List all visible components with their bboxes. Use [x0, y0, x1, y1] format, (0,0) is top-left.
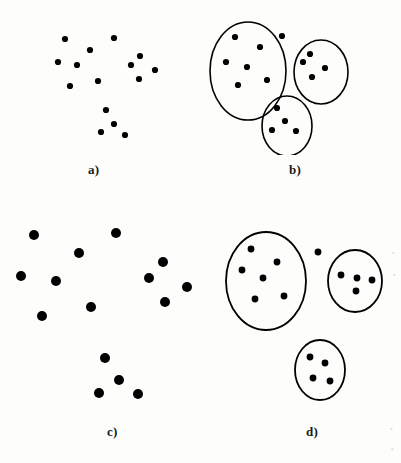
scan-artifact-1: •: [392, 248, 395, 258]
outlier-point: [152, 67, 158, 73]
outlier-point: [55, 59, 61, 65]
outlier-point: [29, 230, 39, 240]
panel-d-plot: [200, 200, 401, 415]
data-point: [223, 59, 229, 65]
outlier-point: [100, 353, 110, 363]
data-point: [239, 267, 246, 274]
data-point: [300, 59, 306, 65]
data-point: [235, 82, 241, 88]
data-point: [282, 118, 288, 124]
outlier-point: [128, 62, 134, 68]
outlier-point: [111, 228, 121, 238]
data-point: [274, 259, 281, 266]
outlier-point: [114, 375, 124, 385]
outlier-point: [74, 62, 80, 68]
outlier-point: [62, 36, 68, 42]
cluster-ellipse: [295, 340, 345, 400]
outlier-point: [279, 33, 285, 39]
data-point: [248, 246, 255, 253]
data-point: [293, 128, 299, 134]
outlier-point: [158, 257, 168, 267]
panel-a-plot: [0, 0, 200, 155]
clustering-figure: a) b) c) d) • • • •: [0, 0, 401, 463]
outlier-point: [315, 249, 322, 256]
outlier-point: [133, 389, 143, 399]
outlier-point: [16, 271, 26, 281]
data-point: [309, 74, 315, 80]
outlier-point: [182, 282, 192, 292]
panel-b-ellipse-group: [210, 22, 348, 155]
panel-a-label: a): [88, 162, 99, 178]
data-point: [353, 288, 360, 295]
panel-d: [200, 200, 401, 415]
data-point: [244, 64, 250, 70]
outlier-point: [136, 76, 142, 82]
scan-artifact-4: •: [391, 444, 394, 454]
panel-c-label: c): [107, 424, 118, 440]
outlier-point: [74, 248, 84, 258]
outlier-point: [103, 107, 109, 113]
outlier-point: [137, 53, 143, 59]
data-point: [257, 44, 263, 50]
outlier-point: [160, 297, 170, 307]
data-point: [274, 105, 280, 111]
outlier-point: [111, 121, 117, 127]
data-point: [307, 51, 313, 57]
panel-d-label: d): [306, 424, 318, 440]
data-point: [281, 293, 288, 300]
scan-artifact-3: •: [390, 424, 393, 434]
panel-a: [0, 0, 200, 155]
data-point: [260, 275, 267, 282]
cluster-ellipse: [210, 22, 286, 120]
outlier-point: [51, 276, 61, 286]
outlier-point: [67, 83, 73, 89]
data-point: [327, 378, 334, 385]
cluster-ellipse: [262, 96, 312, 155]
data-point: [307, 354, 314, 361]
data-point: [232, 34, 238, 40]
data-point: [269, 127, 275, 133]
panel-c-plot: [0, 200, 200, 415]
outlier-point: [95, 78, 101, 84]
outlier-point: [87, 47, 93, 53]
cluster-ellipse: [294, 40, 348, 104]
outlier-point: [86, 302, 96, 312]
data-point: [369, 277, 376, 284]
outlier-point: [94, 388, 104, 398]
data-point: [322, 65, 328, 71]
panel-a-point-group: [55, 35, 158, 138]
data-point: [338, 272, 345, 279]
panel-c: [0, 200, 200, 415]
panel-b: [200, 0, 401, 155]
data-point: [310, 375, 317, 382]
outlier-point: [37, 311, 47, 321]
cluster-ellipse: [226, 232, 306, 330]
panel-c-point-group: [16, 228, 192, 399]
outlier-point: [98, 129, 104, 135]
panel-b-label: b): [289, 162, 301, 178]
outlier-point: [122, 132, 128, 138]
data-point: [354, 275, 361, 282]
data-point: [252, 296, 259, 303]
outlier-point: [144, 273, 154, 283]
panel-d-ellipse-group: [226, 232, 382, 400]
panel-d-point-group: [239, 246, 376, 385]
outlier-point: [111, 35, 117, 41]
scan-artifact-2: •: [393, 270, 396, 280]
panel-b-plot: [200, 0, 401, 155]
data-point: [264, 77, 270, 83]
data-point: [322, 360, 329, 367]
